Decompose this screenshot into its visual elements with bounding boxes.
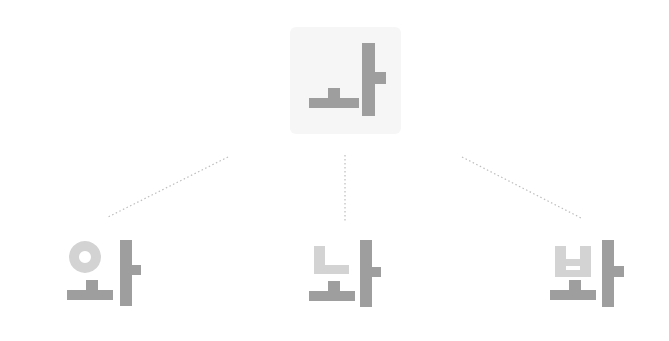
connector-left: [108, 157, 228, 217]
child-glyph-wa: [67, 240, 141, 306]
ieung-initial: [69, 241, 101, 273]
connector-lines: [108, 155, 583, 221]
child-glyph-nwa: [309, 240, 381, 307]
child-glyph-bwa: [550, 240, 624, 307]
bieup-initial: [555, 246, 591, 277]
hangul-composition-diagram: ㅏ 와 놔 봐: [0, 0, 669, 341]
connector-right: [462, 157, 583, 219]
diagram-canvas: [0, 0, 669, 341]
nieun-initial: [314, 246, 349, 274]
root-glyph-a: [309, 43, 386, 116]
